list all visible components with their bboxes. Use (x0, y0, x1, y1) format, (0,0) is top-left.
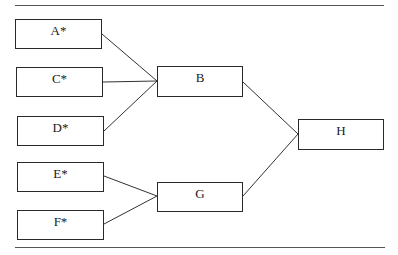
node-d: D* (17, 116, 104, 146)
edge-a-to-b (102, 34, 157, 81)
edge-g-to-h (243, 134, 298, 196)
edge-b-to-h (243, 82, 298, 134)
edge-d-to-b (104, 81, 157, 131)
node-c-label: C* (17, 72, 102, 85)
node-f: F* (17, 210, 104, 240)
node-h-label: H (299, 124, 383, 137)
node-a: A* (15, 19, 102, 49)
node-e: E* (17, 162, 104, 192)
node-f-label: F* (18, 215, 103, 228)
node-c: C* (16, 67, 103, 97)
node-g: G (157, 182, 243, 212)
edge-f-to-g (104, 196, 157, 224)
edge-c-to-b (103, 81, 157, 82)
node-d-label: D* (18, 121, 103, 134)
node-h: H (298, 119, 384, 150)
node-e-label: E* (18, 167, 103, 180)
edge-e-to-g (104, 176, 157, 196)
node-b: B (157, 66, 243, 97)
node-b-label: B (158, 71, 242, 84)
node-g-label: G (158, 187, 242, 200)
node-a-label: A* (16, 24, 101, 37)
